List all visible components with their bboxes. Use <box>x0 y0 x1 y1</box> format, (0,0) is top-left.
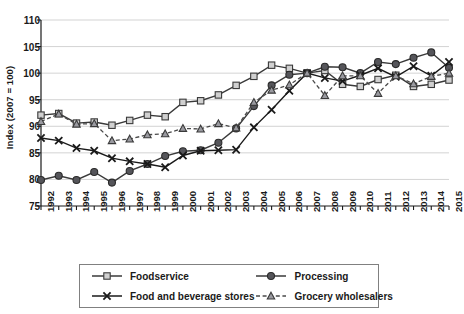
marker-x <box>250 124 257 131</box>
legend-label: Foodservice <box>130 271 189 282</box>
marker-square <box>233 82 239 88</box>
square-open-marker <box>90 269 124 283</box>
marker-square <box>109 122 115 128</box>
series-line <box>41 52 449 182</box>
marker-square <box>126 117 132 123</box>
legend: FoodserviceProcessingFood and beverage s… <box>79 264 379 308</box>
marker-x <box>410 63 417 70</box>
marker-square <box>251 73 257 79</box>
marker-circle <box>108 179 115 186</box>
marker-square <box>215 92 221 98</box>
marker-circle <box>55 172 62 179</box>
marker-x <box>268 106 275 113</box>
marker-circle <box>73 176 80 183</box>
marker-circle <box>126 167 133 174</box>
legend-label: Processing <box>294 271 348 282</box>
marker-circle <box>215 139 222 146</box>
marker-square <box>180 99 186 105</box>
marker-circle <box>268 273 275 280</box>
marker-triangle <box>179 125 186 132</box>
marker-circle <box>392 61 399 68</box>
marker-triangle <box>215 120 222 127</box>
marker-square <box>286 65 292 71</box>
legend-item-grocery-wholesalers[interactable]: Grocery wholesalers <box>254 289 392 303</box>
series-foodservice <box>38 62 452 128</box>
marker-circle <box>428 49 435 56</box>
marker-circle <box>375 58 382 65</box>
circle-filled-marker <box>254 269 288 283</box>
marker-triangle <box>268 292 275 299</box>
marker-square <box>104 273 110 279</box>
legend-item-foodservice[interactable]: Foodservice <box>90 269 254 283</box>
x-marker <box>90 289 124 303</box>
marker-triangle <box>108 137 115 144</box>
marker-square <box>268 62 274 68</box>
legend-label: Food and beverage stores <box>130 291 254 302</box>
marker-circle <box>321 63 328 70</box>
legend-label: Grocery wholesalers <box>294 291 392 302</box>
marker-square <box>375 76 381 82</box>
legend-item-food-and-beverage-stores[interactable]: Food and beverage stores <box>90 289 254 303</box>
marker-triangle <box>286 81 293 88</box>
series-processing <box>38 49 453 186</box>
marker-square <box>428 81 434 87</box>
marker-circle <box>91 168 98 175</box>
triangle-dashed-marker <box>254 289 288 303</box>
marker-square <box>144 112 150 118</box>
marker-circle <box>410 54 417 61</box>
marker-square <box>197 98 203 104</box>
series-line <box>41 73 449 140</box>
marker-circle <box>162 153 169 160</box>
marker-square <box>357 83 363 89</box>
marker-circle <box>286 71 293 78</box>
marker-square <box>162 114 168 120</box>
marker-circle <box>38 176 45 183</box>
marker-circle <box>339 64 346 71</box>
marker-square <box>446 77 452 83</box>
legend-item-processing[interactable]: Processing <box>254 269 392 283</box>
